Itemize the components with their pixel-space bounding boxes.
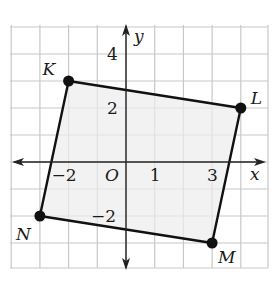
x-axis-label: x	[250, 164, 260, 184]
x-tick-label: 3	[207, 165, 218, 185]
vertex-point-k	[63, 76, 74, 87]
vertex-label-n: N	[15, 224, 32, 244]
y-tick-label: 4	[107, 44, 118, 64]
y-tick-label: −2	[91, 206, 116, 226]
coordinate-plane-diagram: xyO−21342−2KLMN	[0, 0, 278, 284]
vertex-label-m: M	[217, 247, 236, 267]
origin-label: O	[105, 165, 119, 185]
vertex-point-m	[207, 238, 218, 249]
vertex-label-k: K	[42, 59, 57, 79]
vertex-point-l	[235, 103, 246, 114]
y-tick-label: 2	[107, 98, 118, 118]
x-tick-label: 1	[150, 165, 161, 185]
x-tick-label: −2	[52, 165, 77, 185]
vertex-point-n	[34, 211, 45, 222]
vertex-label-l: L	[250, 88, 262, 108]
y-axis-label: y	[133, 26, 144, 46]
